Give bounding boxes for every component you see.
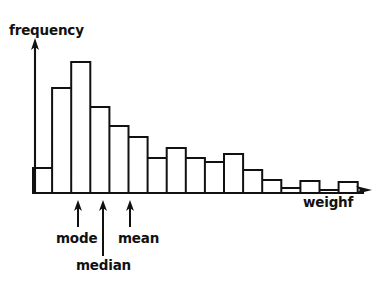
mode-label: mode bbox=[56, 232, 97, 246]
x-axis-label: weighf bbox=[303, 196, 353, 210]
statistic-pointers bbox=[74, 200, 134, 255]
histogram-bar-outline bbox=[33, 62, 358, 193]
histogram-bars bbox=[33, 62, 358, 193]
median-label: median bbox=[76, 259, 131, 273]
pointer-median bbox=[99, 200, 107, 255]
histogram-svg bbox=[0, 0, 386, 290]
pointer-mode bbox=[74, 200, 82, 226]
mean-label: mean bbox=[118, 232, 159, 246]
y-axis-label: frequency bbox=[9, 24, 84, 38]
histogram-figure: frequency weighf mode mean median bbox=[0, 0, 386, 290]
pointer-mean bbox=[126, 200, 134, 226]
